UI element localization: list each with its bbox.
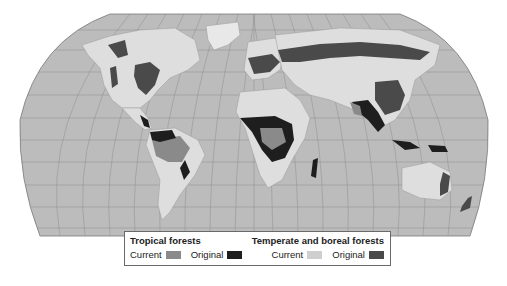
temperate-original-label: Original — [332, 249, 365, 260]
temperate-legend-row: Current Original — [272, 249, 384, 260]
tropical-original-swatch — [227, 251, 242, 259]
temperate-original-swatch — [369, 251, 384, 259]
tropical-legend-title: Tropical forests — [130, 235, 201, 246]
temperate-current-label: Current — [272, 249, 304, 260]
tropical-original-label: Original — [191, 249, 224, 260]
temperate-legend-title: Temperate and boreal forests — [252, 235, 384, 246]
tropical-legend-row: Current Original — [130, 249, 248, 260]
tropical-current-label: Current — [130, 249, 162, 260]
map-legend: Tropical forests Temperate and boreal fo… — [124, 231, 391, 266]
tropical-current-swatch — [166, 251, 181, 259]
temperate-current-swatch — [307, 251, 322, 259]
